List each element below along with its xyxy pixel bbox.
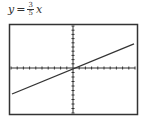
graph-window bbox=[0, 0, 145, 122]
